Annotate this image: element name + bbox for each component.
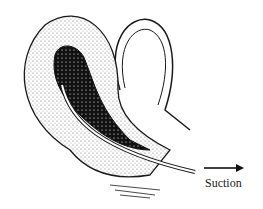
suction-label: Suction <box>205 176 242 191</box>
illustration: Suction <box>0 0 263 209</box>
